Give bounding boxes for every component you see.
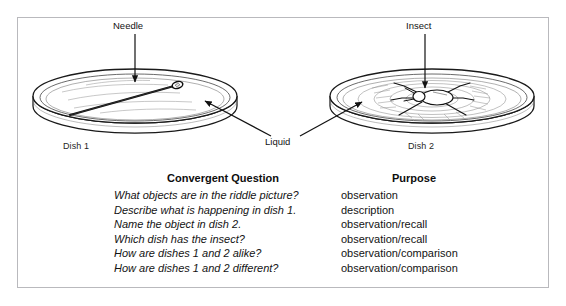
table-header-row: Convergent Question Purpose	[0, 172, 566, 188]
table-body: What objects are in the riddle picture?o…	[0, 189, 566, 277]
cell-question: Name the object in dish 2.	[114, 218, 241, 230]
cell-question: What objects are in the riddle picture?	[114, 189, 299, 201]
figure-root: Needle Insect Liquid Dish 1 Dish 2 Conve…	[0, 0, 566, 306]
cell-purpose: observation	[341, 189, 398, 201]
cell-question: Describe what is happening in dish 1.	[114, 204, 296, 216]
cell-purpose: observation/recall	[341, 218, 427, 230]
cell-purpose: description	[341, 204, 394, 216]
table-row: How are dishes 1 and 2 alike?observation…	[0, 247, 566, 262]
table-row: How are dishes 1 and 2 different?observa…	[0, 262, 566, 277]
cell-purpose: observation/comparison	[341, 247, 458, 259]
cell-question: Which dish has the insect?	[114, 233, 245, 245]
cell-purpose: observation/recall	[341, 233, 427, 245]
dish-1-caption: Dish 1	[63, 141, 89, 151]
dish-2-caption: Dish 2	[408, 141, 434, 151]
cell-question: How are dishes 1 and 2 different?	[114, 262, 279, 274]
column-header-question: Convergent Question	[128, 172, 318, 184]
cell-purpose: observation/comparison	[341, 262, 458, 274]
needle-label: Needle	[113, 20, 143, 31]
insect-label: Insect	[406, 20, 431, 31]
column-header-purpose: Purpose	[341, 172, 487, 184]
table-row: Describe what is happening in dish 1.des…	[0, 204, 566, 219]
table-row: What objects are in the riddle picture?o…	[0, 189, 566, 204]
table-row: Name the object in dish 2.observation/re…	[0, 218, 566, 233]
table-row: Which dish has the insect?observation/re…	[0, 233, 566, 248]
liquid-label: Liquid	[265, 136, 290, 147]
cell-question: How are dishes 1 and 2 alike?	[114, 247, 261, 259]
convergent-question-table: Convergent Question Purpose What objects…	[0, 172, 566, 277]
